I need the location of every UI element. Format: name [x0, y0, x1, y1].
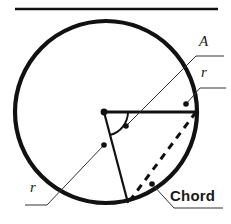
- radius-label-bottom-left: r: [30, 180, 36, 195]
- area-label: A: [199, 34, 208, 49]
- radius-label-top-right: r: [201, 65, 207, 80]
- area-leader-line: [126, 56, 224, 126]
- radius-bottom-left-leader-line: [25, 145, 104, 205]
- circle-sector-diagram: A r r Chord: [0, 0, 231, 224]
- chord-label: Chord: [170, 188, 215, 203]
- chord-leader-dot: [149, 181, 155, 187]
- area-leader-dot: [123, 123, 129, 129]
- radius-bottom-left-leader-dot: [101, 142, 107, 148]
- center-point-dot: [101, 109, 108, 116]
- radius-top-right-leader-line: [186, 88, 226, 104]
- radius-top-right-leader-dot: [183, 101, 189, 107]
